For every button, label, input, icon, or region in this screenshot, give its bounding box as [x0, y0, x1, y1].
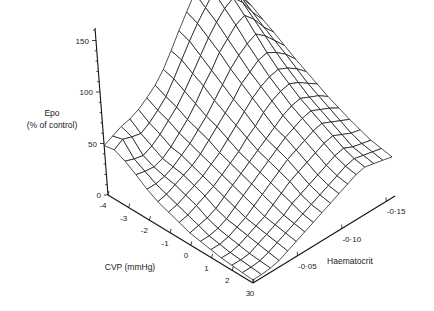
- x-tick: [129, 204, 130, 208]
- x-axis-title: CVP (mmHg): [105, 262, 156, 272]
- y-tick-label: -0·15: [387, 207, 406, 216]
- z-tick-label: 0: [97, 191, 102, 200]
- z-axis-title-line1: Epo: [44, 108, 59, 118]
- x-tick-label: 2: [225, 276, 230, 285]
- y-tick-label: -0·05: [298, 262, 317, 271]
- z-axis-line: [95, 28, 108, 195]
- y-tick-label: 0: [250, 289, 255, 298]
- z-axis-title-line2: (% of control): [27, 120, 78, 130]
- z-tick-label: 100: [80, 88, 94, 97]
- x-tick-label: -4: [99, 201, 107, 210]
- y-axis-title: Haematocrit: [327, 256, 373, 266]
- x-tick-label: 1: [204, 264, 209, 273]
- z-tick-label: 150: [76, 37, 90, 46]
- y-tick-label: -0·10: [342, 235, 361, 244]
- z-tick-label: 50: [88, 140, 97, 149]
- x-tick: [191, 241, 192, 245]
- x-tick-label: -1: [162, 239, 170, 248]
- x-tick: [232, 266, 233, 270]
- x-tick-label: 0: [184, 251, 189, 260]
- x-tick: [212, 254, 213, 258]
- x-tick-label: -2: [141, 226, 149, 235]
- surface-chart: 050100150-4-3-2-101230-0·05-0·10-0·15 Ep…: [0, 0, 434, 311]
- chart-canvas: 050100150-4-3-2-101230-0·05-0·10-0·15 Ep…: [0, 0, 434, 311]
- x-tick-label: -3: [120, 214, 128, 223]
- x-tick: [170, 229, 171, 233]
- x-tick: [149, 216, 150, 220]
